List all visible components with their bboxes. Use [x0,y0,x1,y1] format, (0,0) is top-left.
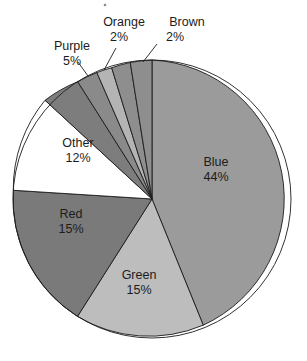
slice-label-red-value: 15% [58,222,83,236]
callout-label-orange-value: 2% [110,30,128,44]
slice-label-green-value: 15% [126,283,151,297]
leader-line-brown [143,44,157,62]
slice-label-other-name: Other [62,136,93,150]
slice-label-other-value: 12% [65,151,90,165]
pie-chart: Blue 44% Green 15% Red 15% Other 12% Pur… [0,0,307,361]
slice-label-blue-value: 44% [203,170,228,184]
callout-label-brown-name: Brown [169,15,204,29]
pie-chart-canvas: Blue 44% Green 15% Red 15% Other 12% Pur… [0,0,307,361]
callout-label-brown-value: 2% [166,30,184,44]
scan-speck [104,4,107,7]
callout-label-purple-name: Purple [54,39,90,53]
slice-label-red-name: Red [60,207,83,221]
slice-label-green-name: Green [122,268,157,282]
slice-label-blue-name: Blue [203,155,228,169]
callout-label-purple-value: 5% [63,54,81,68]
callout-label-orange-name: Orange [103,15,145,29]
